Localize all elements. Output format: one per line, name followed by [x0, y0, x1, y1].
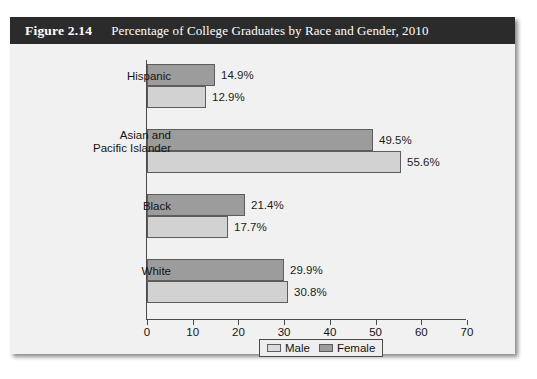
axis-tick-label: 60 — [415, 326, 428, 338]
legend-swatch-male-icon — [267, 344, 281, 352]
axis-tick — [238, 320, 239, 325]
bar-row-male: 30.8% — [147, 281, 327, 303]
legend-item-female[interactable]: Female — [319, 342, 375, 354]
chart-legend: Male Female — [259, 339, 383, 357]
bar-female[interactable] — [147, 129, 373, 151]
axis-tick-label: 10 — [186, 326, 199, 338]
figure-header: Figure 2.14 Percentage of College Gradua… — [10, 17, 515, 44]
bar-group-asian-pacific-islander: 49.5% 55.6% — [147, 129, 466, 179]
axis-tick — [421, 320, 422, 325]
bar-value-label: 55.6% — [407, 156, 440, 168]
figure-title: Percentage of College Graduates by Race … — [92, 23, 428, 39]
bar-value-label: 29.9% — [290, 264, 323, 276]
figure-number: Figure 2.14 — [10, 23, 92, 39]
axis-tick — [330, 320, 331, 325]
axis-tick — [147, 320, 148, 325]
category-label-line: Pacific Islander — [93, 142, 171, 155]
legend-swatch-female-icon — [319, 344, 333, 352]
bar-group-white: 29.9% 30.8% — [147, 259, 466, 309]
category-label-line: Hispanic — [127, 70, 171, 83]
bar-group-black: 21.4% 17.7% — [147, 194, 466, 244]
bar-row-male: 55.6% — [147, 151, 440, 173]
axis-tick-label: 40 — [323, 326, 336, 338]
bar-value-label: 12.9% — [212, 91, 245, 103]
bar-row-male: 17.7% — [147, 216, 267, 238]
legend-label-female: Female — [337, 342, 375, 354]
bar-value-label: 21.4% — [251, 199, 284, 211]
legend-label-male: Male — [285, 342, 310, 354]
chart-body: 14.9% 12.9% 49.5% 55.6% — [10, 44, 515, 354]
bar-male[interactable] — [147, 281, 288, 303]
category-label-asian-pacific-islander: Asian and Pacific Islander — [93, 129, 171, 155]
plot-area: 14.9% 12.9% 49.5% 55.6% — [146, 60, 466, 320]
category-label-line: Asian and — [93, 129, 171, 142]
axis-tick — [284, 320, 285, 325]
category-label-line: Black — [143, 200, 171, 213]
bar-row-female: 29.9% — [147, 259, 323, 281]
axis-tick — [193, 320, 194, 325]
category-label-line: White — [142, 265, 171, 278]
bar-group-hispanic: 14.9% 12.9% — [147, 64, 466, 114]
axis-tick-label: 0 — [144, 326, 150, 338]
category-label-white: White — [142, 265, 171, 278]
bar-male[interactable] — [147, 216, 228, 238]
bar-male[interactable] — [147, 86, 206, 108]
bar-value-label: 17.7% — [234, 221, 267, 233]
bar-male[interactable] — [147, 151, 401, 173]
figure-panel: Figure 2.14 Percentage of College Gradua… — [10, 17, 515, 354]
axis-tick — [467, 320, 468, 325]
bar-value-label: 30.8% — [294, 286, 327, 298]
legend-item-male[interactable]: Male — [267, 342, 310, 354]
axis-tick-label: 30 — [278, 326, 291, 338]
bar-row-male: 12.9% — [147, 86, 245, 108]
bar-value-label: 14.9% — [221, 69, 254, 81]
axis-tick-label: 20 — [232, 326, 245, 338]
axis-tick-label: 50 — [369, 326, 382, 338]
bar-value-label: 49.5% — [379, 134, 412, 146]
category-label-black: Black — [143, 200, 171, 213]
source-caption — [14, 368, 414, 377]
bar-row-female: 49.5% — [147, 129, 412, 151]
axis-tick — [376, 320, 377, 325]
axis-tick-label: 70 — [461, 326, 474, 338]
category-label-hispanic: Hispanic — [127, 70, 171, 83]
